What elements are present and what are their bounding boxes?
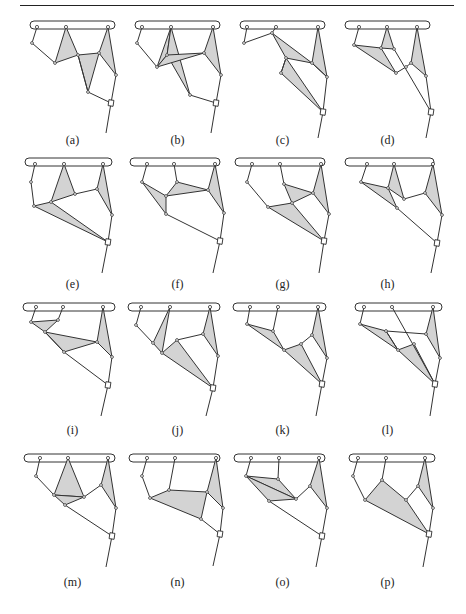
ternary-link <box>381 27 394 49</box>
ternary-link <box>153 307 170 353</box>
binary-link <box>64 352 108 385</box>
ground-pivot-icon <box>211 25 214 28</box>
mechanism-panel: (k) <box>230 300 335 445</box>
mechanism-panel: (l) <box>335 300 440 445</box>
binary-link <box>206 388 213 416</box>
ground-pivot-icon <box>62 162 65 165</box>
ground-pivot-icon <box>169 25 172 28</box>
binary-link <box>323 77 327 112</box>
binary-link <box>429 508 433 534</box>
joint-icon <box>165 213 168 216</box>
panel-caption: (h) <box>335 277 440 292</box>
ground-pivot-icon <box>64 25 67 28</box>
joint-icon <box>385 330 388 333</box>
joint-icon <box>353 44 356 47</box>
panel-caption: (p) <box>335 575 440 590</box>
ternary-link <box>97 164 112 215</box>
binary-link <box>404 193 425 199</box>
linkage-diagram <box>230 450 345 580</box>
joint-icon <box>381 479 384 482</box>
ground-pivot-icon <box>278 162 281 165</box>
panel-caption: (e) <box>20 277 125 292</box>
joint-icon <box>245 475 248 478</box>
binary-link <box>437 215 442 243</box>
ternary-link <box>426 307 440 358</box>
joint-icon <box>380 47 383 50</box>
binary-link <box>426 76 431 112</box>
slider-block-icon <box>432 381 438 388</box>
ground-pivot-icon <box>317 456 320 459</box>
binary-link <box>169 458 175 490</box>
ground-pivot-icon <box>316 305 319 308</box>
mechanism-panel: (e) <box>20 155 125 300</box>
binary-link <box>322 358 327 384</box>
ground-pivot-icon <box>431 305 434 308</box>
binary-link <box>247 182 268 207</box>
joint-icon <box>83 496 86 499</box>
binary-link <box>211 103 216 133</box>
ground-pivot-icon <box>249 456 252 459</box>
mechanism-panel: (i) <box>20 300 125 445</box>
joint-icon <box>328 213 331 216</box>
joint-icon <box>291 202 294 205</box>
binary-link <box>190 95 216 103</box>
ground-pivot-icon <box>38 456 41 459</box>
ground-pivot-icon <box>168 305 171 308</box>
binary-link <box>201 519 220 534</box>
mechanism-panel: (c) <box>230 15 335 160</box>
joint-icon <box>115 74 118 77</box>
binary-link <box>102 242 108 273</box>
ternary-link <box>268 203 324 241</box>
ground-pivot-icon <box>384 456 387 459</box>
joint-icon <box>441 214 444 217</box>
ground-pivot-icon <box>140 25 143 28</box>
joint-icon <box>168 489 171 492</box>
joint-icon <box>364 499 367 502</box>
binary-link <box>36 476 54 495</box>
binary-link <box>65 505 112 536</box>
joint-icon <box>311 62 314 65</box>
joint-icon <box>413 343 416 346</box>
linkage-diagram <box>335 155 450 285</box>
ternary-link <box>272 33 312 63</box>
binary-link <box>431 243 437 273</box>
joint-icon <box>439 357 442 360</box>
joint-icon <box>64 504 67 507</box>
joint-icon <box>152 342 155 345</box>
ternary-link <box>204 27 221 75</box>
linkage-diagram <box>335 450 450 580</box>
joint-icon <box>285 57 288 60</box>
joint-icon <box>30 321 33 324</box>
binary-link <box>213 241 220 273</box>
linkage-diagram <box>20 15 135 145</box>
ternary-link <box>150 490 207 519</box>
joint-icon <box>326 76 329 79</box>
binary-link <box>316 536 322 567</box>
joint-icon <box>53 494 56 497</box>
joint-icon <box>352 475 355 478</box>
ternary-link <box>55 27 78 63</box>
joint-icon <box>359 323 362 326</box>
slider-block-icon <box>105 239 111 246</box>
ternary-link <box>312 307 327 358</box>
binary-link <box>322 508 327 536</box>
binary-link <box>108 215 112 242</box>
binary-link <box>435 358 440 384</box>
mechanism-panel: (o) <box>230 450 335 595</box>
ground-pivot-icon <box>385 25 388 28</box>
ternary-link <box>34 202 108 242</box>
joint-icon <box>111 214 114 217</box>
joint-icon <box>96 188 99 191</box>
joint-icon <box>326 357 329 360</box>
joint-icon <box>397 349 400 352</box>
slider-block-icon <box>426 531 432 538</box>
joint-icon <box>311 334 314 337</box>
ternary-link <box>208 164 224 213</box>
joint-icon <box>283 349 286 352</box>
ground-frame <box>25 158 112 166</box>
ternary-link <box>162 340 213 388</box>
linkage-diagram <box>335 15 450 145</box>
ground-frame <box>349 454 435 462</box>
binary-link <box>244 33 272 43</box>
binary-link <box>106 103 111 133</box>
